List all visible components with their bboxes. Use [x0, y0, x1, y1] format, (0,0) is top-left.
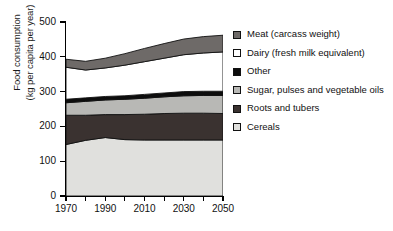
legend-swatch-icon [233, 49, 241, 57]
legend-swatch-icon [233, 105, 241, 113]
legend-item-meat-carcass-weight[interactable]: Meat (carcass weight) [233, 28, 393, 40]
y-axis-tick-label: 0 [0, 191, 56, 201]
chart-legend: Meat (carcass weight)Dairy (fresh milk e… [233, 28, 393, 139]
legend-item-label: Dairy (fresh milk equivalent) [247, 47, 365, 59]
x-axis-tick-label: 2010 [125, 203, 165, 214]
y-axis-tick [60, 161, 65, 162]
y-axis-tick [60, 21, 65, 22]
x-axis-tick [164, 196, 165, 201]
x-axis-tick [144, 196, 145, 201]
y-axis-tick-label: 500 [0, 17, 56, 27]
y-axis-tick-label: 300 [0, 87, 56, 97]
legend-swatch-icon [233, 123, 241, 131]
stacked-area-chart-figure: Food consumption (kg per capita per year… [0, 0, 393, 231]
x-axis-tick [65, 196, 66, 201]
legend-swatch-icon [233, 68, 241, 76]
legend-item-label: Sugar, pulses and vegetable oils [247, 84, 384, 96]
area-band-roots-and-tubers [66, 113, 223, 144]
legend-swatch-icon [233, 86, 241, 94]
legend-item-label: Other [247, 65, 271, 77]
legend-item-label: Meat (carcass weight) [247, 28, 340, 40]
legend-item-roots-and-tubers[interactable]: Roots and tubers [233, 102, 393, 114]
x-axis-tick [85, 196, 86, 201]
x-axis-tick-label: 1970 [46, 203, 86, 214]
y-axis-tick [60, 126, 65, 127]
x-axis-tick [105, 196, 106, 201]
y-axis-tick [60, 56, 65, 57]
x-axis-tick [203, 196, 204, 201]
legend-item-sugar-pulses-and-vegetable-oils[interactable]: Sugar, pulses and vegetable oils [233, 84, 393, 96]
x-axis-tick-label: 2030 [164, 203, 204, 214]
area-band-cereals [66, 138, 223, 196]
legend-item-label: Cereals [247, 121, 280, 133]
x-axis-tick [124, 196, 125, 201]
legend-item-label: Roots and tubers [247, 102, 319, 114]
y-axis-tick [60, 91, 65, 92]
legend-item-other[interactable]: Other [233, 65, 393, 77]
legend-item-cereals[interactable]: Cereals [233, 121, 393, 133]
stacked-area-svg [66, 22, 223, 196]
y-axis-tick [60, 195, 65, 196]
y-axis-tick-label: 400 [0, 52, 56, 62]
y-axis-tick-label: 200 [0, 121, 56, 131]
plot-area [66, 22, 223, 196]
x-axis-tick [222, 196, 223, 201]
legend-swatch-icon [233, 31, 241, 39]
legend-item-dairy-fresh-milk-equivalent[interactable]: Dairy (fresh milk equivalent) [233, 47, 393, 59]
y-axis-tick-label: 100 [0, 156, 56, 166]
x-axis-tick-label: 1990 [85, 203, 125, 214]
x-axis-tick [183, 196, 184, 201]
x-axis-tick-label: 2050 [203, 203, 243, 214]
